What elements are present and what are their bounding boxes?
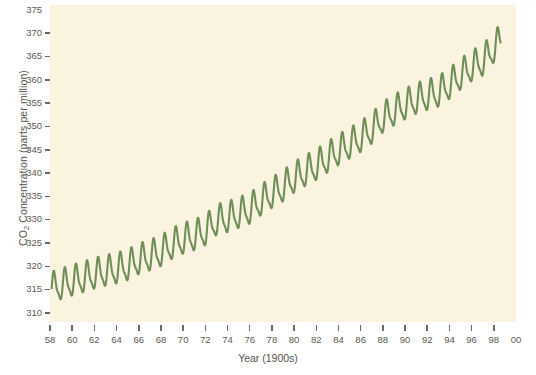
y-tick: 320 — [0, 260, 50, 272]
y-tick-label: 370 — [26, 27, 42, 39]
y-tick-label: 315 — [26, 283, 42, 295]
y-tick-label: 320 — [26, 260, 42, 272]
y-tick-label: 355 — [26, 97, 42, 109]
y-tick: 330 — [0, 213, 50, 225]
x-tick-mark — [227, 325, 229, 331]
y-tick: 335 — [0, 190, 50, 202]
x-tick-mark — [182, 325, 184, 331]
x-tick-mark — [249, 325, 251, 331]
y-tick: 365 — [0, 50, 50, 62]
x-tick-label: 00 — [501, 334, 531, 345]
y-tick: 340 — [0, 167, 50, 179]
y-tick: 370 — [0, 27, 50, 39]
co2-curve — [52, 27, 501, 299]
y-tick-label: 345 — [26, 144, 42, 156]
x-tick-mark — [316, 325, 318, 331]
y-tick: 345 — [0, 144, 50, 156]
y-tick: 355 — [0, 97, 50, 109]
x-tick-mark — [271, 325, 273, 331]
y-tick-label: 325 — [26, 237, 42, 249]
y-axis-ticks: 3753703653603553503453403353303253203153… — [0, 0, 50, 375]
y-tick: 325 — [0, 237, 50, 249]
x-axis-ticks: 5860626466687072747678808284868890929496… — [0, 325, 536, 349]
y-tick-label: 310 — [26, 307, 42, 319]
y-tick-label: 335 — [26, 190, 42, 202]
x-tick-mark — [138, 325, 140, 331]
y-tick-label: 340 — [26, 167, 42, 179]
co2-concentration-chart: CO2 Concentration (parts per million) 37… — [0, 0, 536, 375]
x-tick-mark — [338, 325, 340, 331]
x-tick-mark-spacer — [515, 325, 517, 331]
y-tick-label: 365 — [26, 50, 42, 62]
x-tick-mark — [116, 325, 118, 331]
x-tick-mark — [94, 325, 96, 331]
x-tick: 00 — [501, 325, 531, 345]
x-tick-mark — [426, 325, 428, 331]
x-tick-mark — [493, 325, 495, 331]
x-tick-mark — [360, 325, 362, 331]
x-tick-mark — [293, 325, 295, 331]
x-tick-mark — [160, 325, 162, 331]
y-tick: 375 — [0, 4, 50, 16]
y-tick: 310 — [0, 307, 50, 319]
data-line-series — [50, 5, 516, 322]
y-tick-label: 330 — [26, 213, 42, 225]
x-tick-mark — [404, 325, 406, 331]
x-tick-mark — [471, 325, 473, 331]
x-axis-label: Year (1900s) — [0, 352, 536, 364]
x-tick-mark — [71, 325, 73, 331]
x-tick-mark — [49, 325, 51, 331]
x-tick-mark — [449, 325, 451, 331]
plot-area — [50, 5, 516, 322]
y-tick: 315 — [0, 283, 50, 295]
y-tick-label: 350 — [26, 120, 42, 132]
x-tick-mark — [205, 325, 207, 331]
x-tick-mark — [382, 325, 384, 331]
y-tick: 350 — [0, 120, 50, 132]
y-tick-label: 360 — [26, 74, 42, 86]
y-tick-label: 375 — [26, 4, 42, 16]
y-tick: 360 — [0, 74, 50, 86]
